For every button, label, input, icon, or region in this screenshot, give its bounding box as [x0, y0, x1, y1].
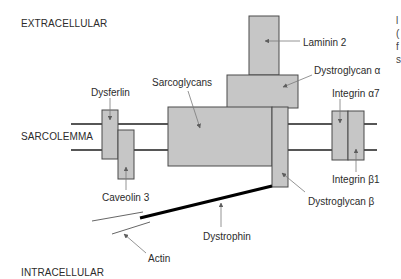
label-integrin-alpha7: Integrin α7 — [332, 88, 380, 99]
label-dysferlin: Dysferlin — [91, 87, 130, 98]
clipped-fragment: ( — [396, 27, 401, 40]
label-actin: Actin — [148, 253, 170, 264]
actin-filament-1 — [92, 212, 143, 221]
region-label-sarcolemma: SARCOLEMMA — [21, 131, 93, 142]
dystrophin-complex-diagram: EXTRACELLULAR SARCOLEMMA INTRACELLULAR L… — [0, 0, 401, 279]
label-caveolin: Caveolin 3 — [102, 192, 150, 203]
label-dystroglycan-beta: Dystroglycan β — [308, 196, 375, 207]
clipped-fragment: f — [396, 40, 401, 53]
actin-arrow-icon — [124, 234, 146, 253]
label-integrin-beta1: Integrin β1 — [332, 174, 380, 185]
actin-filament-2 — [112, 222, 150, 234]
dystroglycan-alpha-box — [227, 75, 298, 108]
sarcoglycans-box — [168, 107, 272, 166]
label-dystrophin: Dystrophin — [203, 231, 251, 242]
label-sarcoglycans: Sarcoglycans — [152, 77, 212, 88]
label-laminin: Laminin 2 — [303, 37, 347, 48]
laminin-box — [249, 16, 279, 75]
clipped-fragment: l — [396, 14, 401, 27]
region-label-intracellular: INTRACELLULAR — [21, 267, 104, 278]
dystroglycan-beta-box — [272, 107, 288, 187]
dystrophin-line — [140, 186, 272, 218]
clipped-fragment: s — [396, 53, 401, 66]
region-label-extracellular: EXTRACELLULAR — [21, 18, 107, 29]
label-dystroglycan-alpha: Dystroglycan α — [314, 65, 381, 76]
clipped-margin-text: l ( f s — [396, 14, 401, 66]
